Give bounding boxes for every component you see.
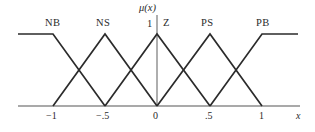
curve-ps <box>157 34 262 106</box>
membership-function-plot <box>0 0 315 132</box>
curve-ns <box>53 34 157 106</box>
membership-function-figure: NB NS Z PS PB μ(x) 1 −1 −.5 0 .5 1 x <box>0 0 315 132</box>
